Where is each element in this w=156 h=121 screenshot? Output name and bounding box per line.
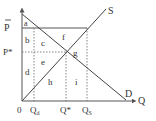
supply-demand-diagram: S D Q 0 P P* Qd Q* QS a b c d e f g h i — [0, 0, 156, 121]
qstar-label: Q* — [60, 105, 71, 115]
origin-label: 0 — [17, 105, 22, 115]
region-b-label: b — [25, 35, 30, 45]
region-h-label: h — [48, 77, 53, 87]
price-floor-label: P — [4, 22, 10, 33]
region-c-label: c — [41, 38, 45, 48]
equilibrium-price-label: P* — [3, 47, 13, 57]
region-a-label: a — [24, 19, 28, 28]
region-f-label: f — [62, 32, 65, 42]
region-e-label: e — [41, 57, 45, 67]
supply-label: S — [108, 5, 114, 16]
q-axis-label: Q — [138, 95, 146, 106]
qs-label: QS — [82, 105, 92, 116]
region-d-label: d — [25, 67, 30, 77]
region-g-label: g — [73, 48, 78, 58]
demand-label: D — [125, 88, 132, 99]
region-i-label: i — [75, 77, 78, 87]
supply-curve — [22, 9, 106, 101]
qd-label: Qd — [30, 105, 40, 116]
